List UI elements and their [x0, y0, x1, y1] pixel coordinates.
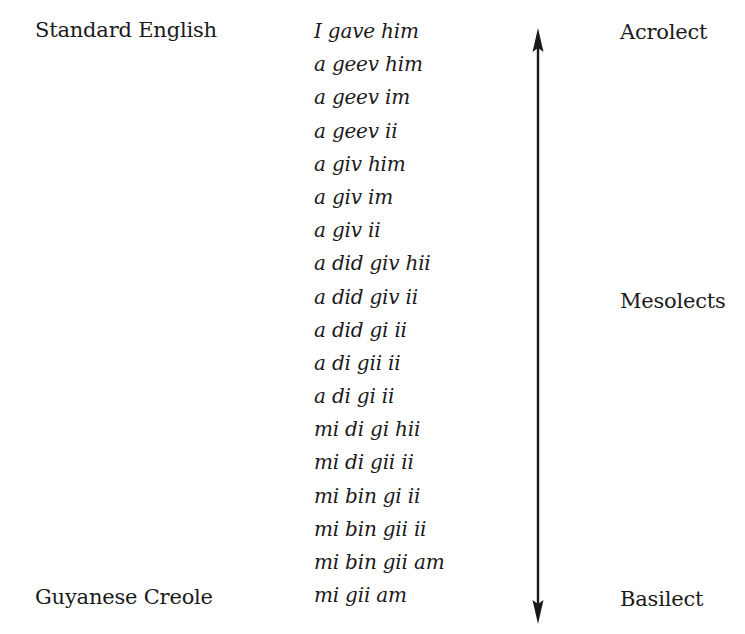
form-item: mi di gi hii — [314, 417, 444, 450]
form-item: I gave him — [314, 19, 444, 52]
form-item: a giv im — [314, 185, 444, 218]
form-item: mi di gii ii — [314, 450, 444, 483]
form-item: mi bin gii ii — [314, 517, 444, 550]
form-item: a geev im — [314, 85, 444, 118]
form-item: a di gii ii — [314, 351, 444, 384]
label-mesolects: Mesolects — [620, 289, 726, 313]
form-item: a giv him — [314, 152, 444, 185]
form-item: a geev him — [314, 52, 444, 85]
form-item: mi gii am — [314, 583, 444, 616]
form-item: a did giv hii — [314, 251, 444, 284]
label-standard-english: Standard English — [35, 18, 217, 42]
label-guyanese-creole: Guyanese Creole — [35, 585, 213, 609]
form-list: I gave him a geev him a geev im a geev i… — [314, 19, 444, 616]
label-acrolect: Acrolect — [620, 20, 707, 44]
form-item: a did gi ii — [314, 318, 444, 351]
form-item: a did giv ii — [314, 285, 444, 318]
form-item: mi bin gii am — [314, 550, 444, 583]
double-headed-arrow-icon — [528, 26, 548, 626]
form-item: a di gi ii — [314, 384, 444, 417]
label-basilect: Basilect — [620, 587, 703, 611]
form-item: mi bin gi ii — [314, 484, 444, 517]
form-item: a geev ii — [314, 119, 444, 152]
form-item: a giv ii — [314, 218, 444, 251]
